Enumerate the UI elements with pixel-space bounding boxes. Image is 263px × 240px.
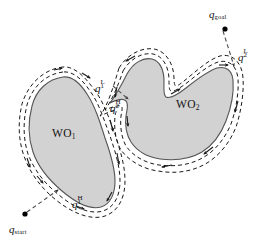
point-label-q1l-sub: 1 <box>101 83 105 90</box>
obstacle-label-wo2: WO2 <box>176 99 200 112</box>
obstacle-label-wo1-text: WO <box>52 127 72 139</box>
obstacle-label-wo1: WO1 <box>52 128 76 141</box>
point-label-q1h: qH1 <box>72 197 84 210</box>
point-label-q1h-scripts: H1 <box>78 197 85 208</box>
obstacle-wo1-group <box>29 77 115 208</box>
connector-q2l-to-goal[interactable] <box>223 31 234 66</box>
point-label-q2h-sub: 2 <box>116 103 120 110</box>
point-label-q-start: qstart <box>9 224 27 236</box>
point-label-q2l-sub: 2 <box>244 52 248 59</box>
point-label-q-goal: qgoal <box>209 9 227 21</box>
point-label-q2l: qL2 <box>238 50 250 63</box>
obstacle-label-wo2-text: WO <box>176 98 196 110</box>
obstacle-label-wo1-sub: 1 <box>72 132 76 141</box>
point-label-q-goal-sub: goal <box>215 13 227 20</box>
point-label-q2h-scripts: H2 <box>116 101 123 112</box>
q-goal-dot <box>222 26 227 31</box>
point-label-q1h-sub: 1 <box>78 199 82 206</box>
figure-canvas: WO1 WO2 qstart qgoal qH1 qL1 qH2 qL2 <box>0 0 263 240</box>
q-start-dot <box>22 211 27 216</box>
obstacle-wo2-group <box>110 59 233 160</box>
point-label-q1l: qL1 <box>95 81 107 94</box>
obstacle-wo2-shape <box>110 59 233 160</box>
point-label-q1l-scripts: L1 <box>101 81 108 92</box>
figure-vector-layer <box>0 0 263 240</box>
obstacle-label-wo2-sub: 2 <box>196 103 200 112</box>
obstacle-wo1-shape <box>29 77 115 208</box>
point-label-q2l-scripts: L2 <box>244 50 251 61</box>
point-label-q2h: qH2 <box>110 101 122 114</box>
point-label-q-start-sub: start <box>15 228 27 235</box>
connector-start-to-q1h[interactable] <box>27 190 58 212</box>
